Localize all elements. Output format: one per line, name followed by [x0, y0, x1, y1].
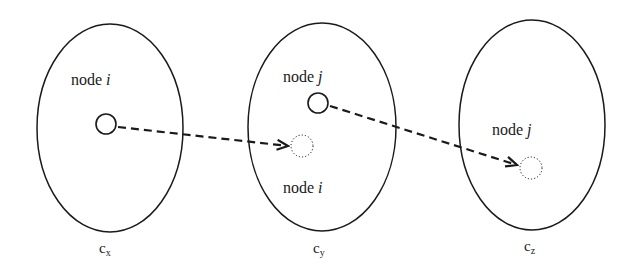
migration-arrow-node-j	[330, 106, 517, 165]
node-j-in-cy	[308, 93, 328, 113]
cluster-migration-diagram: node i cx node j node i cy node j cz	[0, 0, 630, 271]
label-node-i-cx: node i	[71, 71, 111, 88]
cluster-cz-ellipse	[459, 20, 605, 230]
node-i-in-cx	[96, 114, 116, 134]
label-node-j-cz: node j	[492, 121, 532, 139]
cluster-cy-label: cy	[313, 240, 325, 258]
cluster-cy: node j node i cy	[248, 23, 396, 258]
label-node-j-cy: node j	[283, 68, 323, 86]
migration-arrow-node-i	[118, 127, 288, 146]
cluster-cz-label: cz	[524, 238, 536, 256]
cluster-cx: node i cx	[37, 24, 183, 258]
label-node-i-cy: node i	[283, 179, 323, 196]
cluster-cy-ellipse	[248, 23, 396, 231]
node-i-moved-to-cy	[291, 135, 313, 157]
cluster-cz: node j cz	[459, 20, 605, 256]
cluster-cx-label: cx	[99, 240, 111, 258]
node-j-moved-to-cz	[520, 157, 542, 179]
